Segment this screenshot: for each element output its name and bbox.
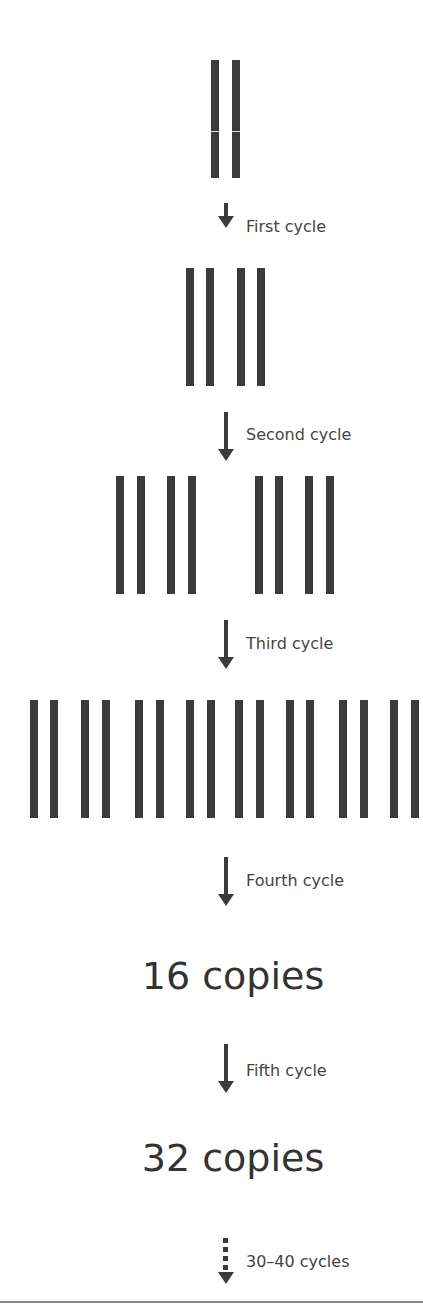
step-label-30-40-cycles: 30–40 cycles: [246, 1252, 350, 1271]
dna-strand: [102, 700, 110, 818]
step-label-third-cycle: Third cycle: [246, 634, 333, 653]
dna-strand: [135, 700, 143, 818]
dotted-arrow-down-icon: [218, 1238, 234, 1288]
dna-strand: [305, 476, 313, 594]
arrow-down-icon: [218, 203, 234, 227]
step-label-second-cycle: Second cycle: [246, 425, 351, 444]
strand-seam: [232, 131, 240, 132]
dna-strand: [232, 60, 240, 178]
dna-strand: [339, 700, 347, 818]
step-label-fifth-cycle: Fifth cycle: [246, 1061, 327, 1080]
strand-seam: [211, 131, 219, 132]
dna-strand: [211, 60, 219, 178]
dna-strand: [257, 268, 265, 386]
dna-strand: [255, 476, 263, 594]
arrow-down-icon: [218, 620, 234, 670]
step-label-fourth-cycle: Fourth cycle: [246, 871, 344, 890]
bottom-divider: [0, 1301, 423, 1303]
dna-strand: [207, 700, 215, 818]
dna-strand: [81, 700, 89, 818]
dna-strand: [360, 700, 368, 818]
result-16-copies: 16 copies: [0, 954, 423, 998]
dna-strand: [50, 700, 58, 818]
dna-strand: [186, 268, 194, 386]
dna-strand: [256, 700, 264, 818]
dna-strand: [237, 268, 245, 386]
arrow-down-icon: [218, 857, 234, 907]
step-label-first-cycle: First cycle: [246, 217, 326, 236]
dna-strand: [326, 476, 334, 594]
dna-strand: [275, 476, 283, 594]
dna-strand: [167, 476, 175, 594]
dna-strand: [390, 700, 398, 818]
dna-strand: [206, 268, 214, 386]
dna-strand: [188, 476, 196, 594]
dna-strand: [235, 700, 243, 818]
arrow-down-icon: [218, 412, 234, 462]
dna-strand: [306, 700, 314, 818]
dna-strand: [411, 700, 419, 818]
dna-strand: [156, 700, 164, 818]
dna-strand: [137, 476, 145, 594]
dna-strand: [30, 700, 38, 818]
dna-strand: [116, 476, 124, 594]
result-32-copies: 32 copies: [0, 1136, 423, 1180]
dna-strand: [186, 700, 194, 818]
arrow-down-icon: [218, 1044, 234, 1094]
dna-strand: [286, 700, 294, 818]
